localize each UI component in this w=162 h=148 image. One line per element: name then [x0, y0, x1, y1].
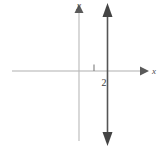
y-axis-label: y [76, 0, 81, 10]
line-up-arrow-icon [103, 3, 113, 17]
x-axis-label: x [151, 66, 156, 76]
coordinate-graph-figure: y x 2 [0, 0, 162, 148]
graph-canvas: y x 2 [0, 0, 162, 148]
x-intercept-label: 2 [102, 77, 107, 88]
line-down-arrow-icon [103, 132, 113, 146]
x-axis-arrow-icon [140, 67, 149, 76]
